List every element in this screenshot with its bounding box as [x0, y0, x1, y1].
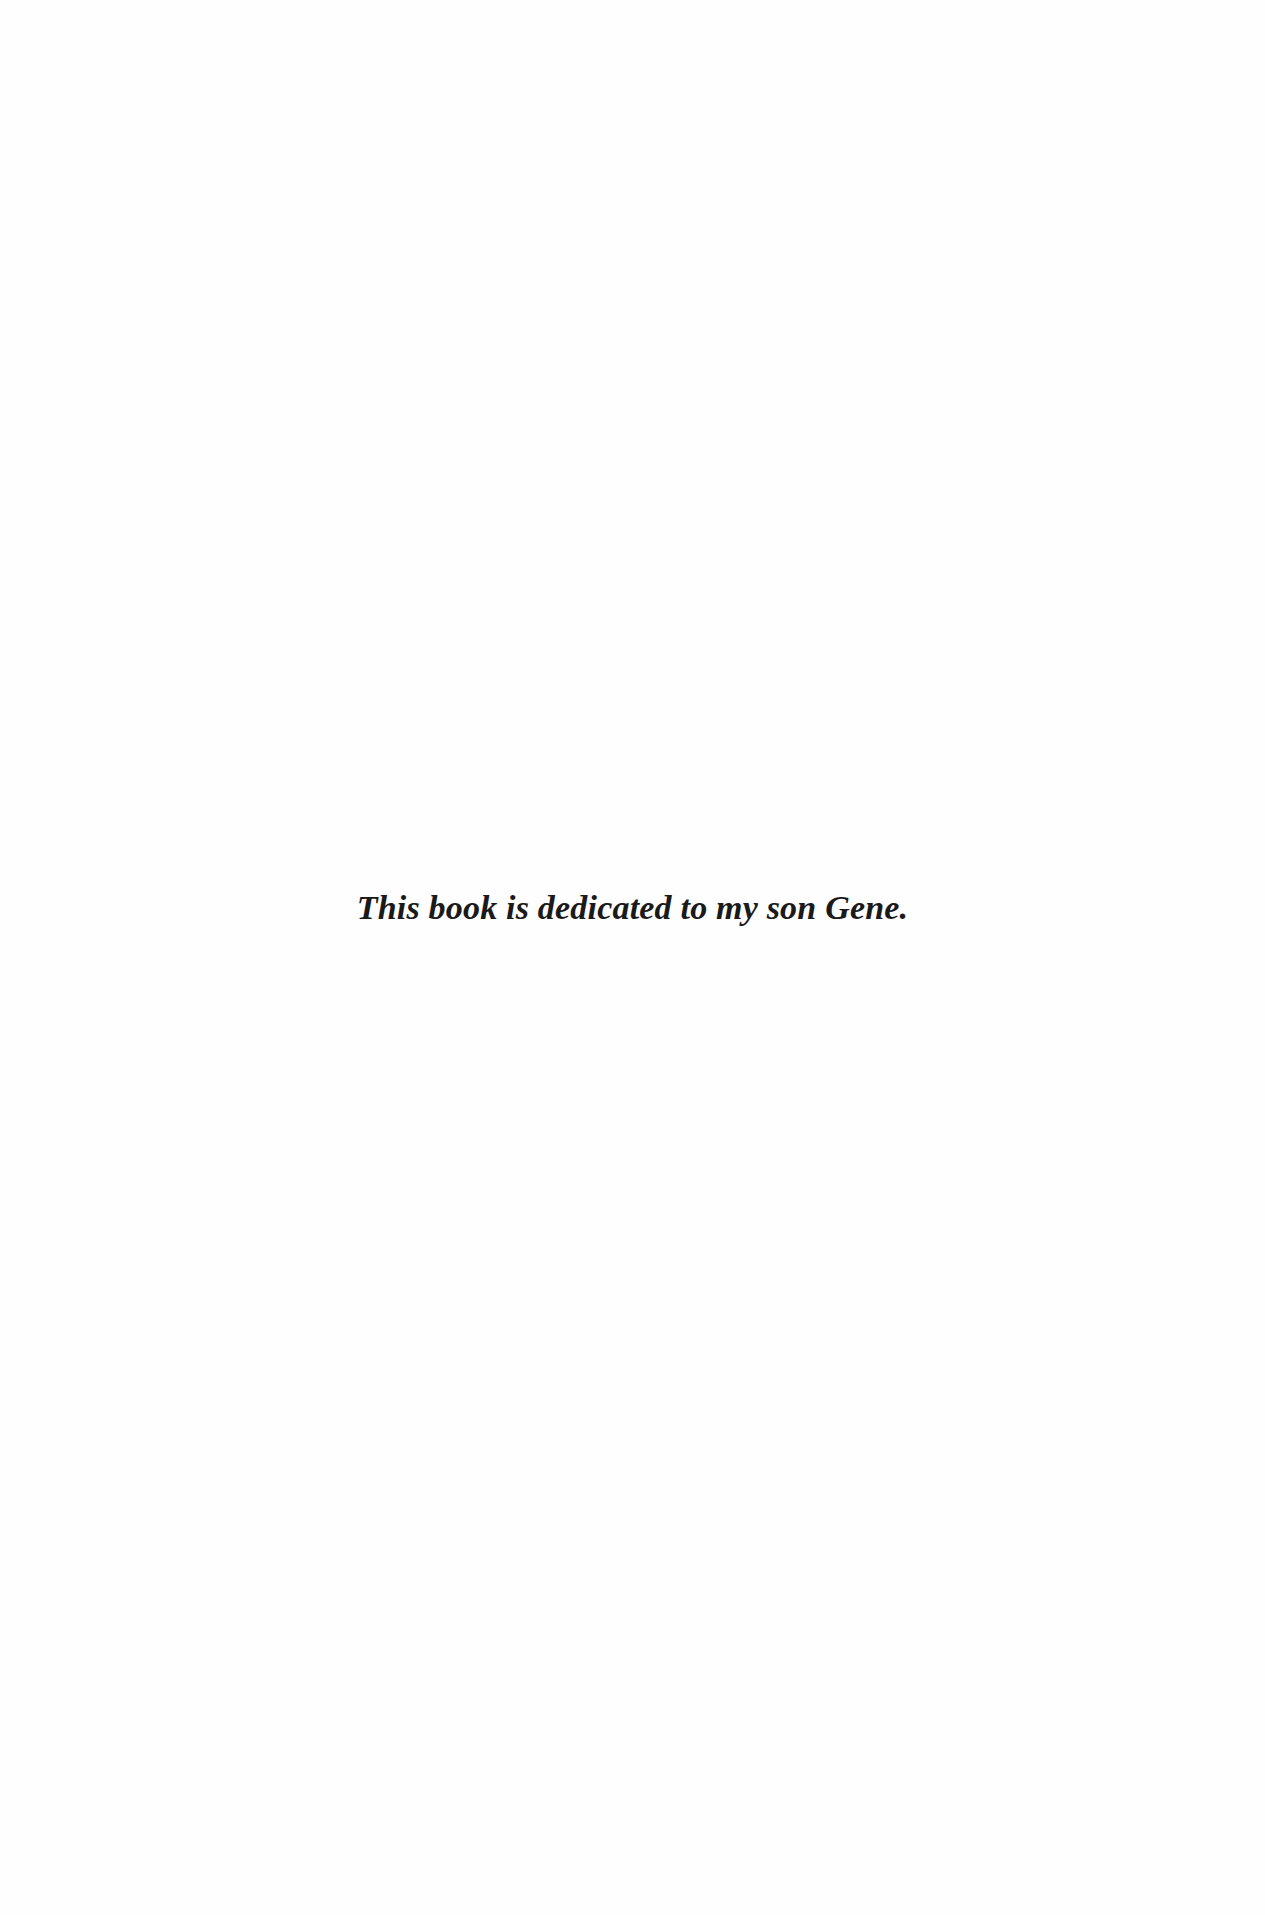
- dedication-text: This book is dedicated to my son Gene.: [0, 886, 1265, 930]
- book-page: This book is dedicated to my son Gene.: [0, 0, 1265, 1915]
